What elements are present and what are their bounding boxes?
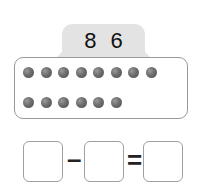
dot-icon bbox=[76, 67, 87, 78]
number-8: 8 bbox=[84, 30, 96, 52]
dot-row-1 bbox=[23, 67, 157, 78]
number-tab: 8 6 bbox=[62, 24, 145, 58]
equals-sign: = bbox=[127, 147, 142, 173]
dot-icon bbox=[128, 67, 139, 78]
dot-icon bbox=[93, 97, 104, 108]
answer-box-2[interactable] bbox=[84, 141, 124, 182]
dot-icon bbox=[111, 67, 122, 78]
dots-board bbox=[14, 57, 188, 119]
dot-icon bbox=[58, 67, 69, 78]
dot-icon bbox=[58, 97, 69, 108]
dot-icon bbox=[111, 97, 122, 108]
answer-box-3[interactable] bbox=[143, 141, 183, 182]
dot-icon bbox=[23, 97, 34, 108]
dot-row-2 bbox=[23, 97, 122, 108]
minus-sign: – bbox=[67, 146, 81, 172]
dot-icon bbox=[76, 97, 87, 108]
dot-icon bbox=[93, 67, 104, 78]
answer-box-1[interactable] bbox=[23, 141, 63, 182]
number-6: 6 bbox=[111, 30, 123, 52]
dot-icon bbox=[41, 97, 52, 108]
dot-icon bbox=[23, 67, 34, 78]
dot-icon bbox=[41, 67, 52, 78]
dot-icon bbox=[146, 67, 157, 78]
